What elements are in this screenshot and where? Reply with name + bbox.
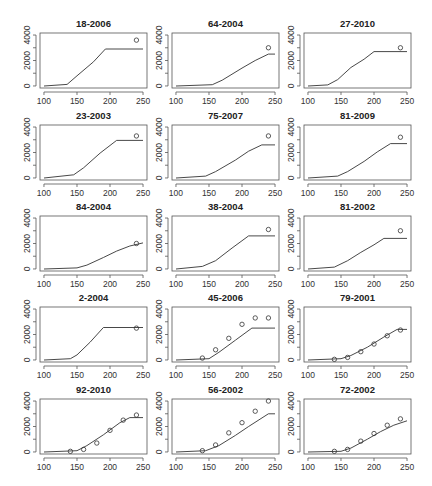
x-tick-label: 100	[169, 370, 183, 380]
plot-frame	[172, 33, 279, 88]
x-tick-label: 250	[136, 370, 150, 380]
x-tick-label: 200	[103, 96, 117, 106]
x-tick-label: 100	[37, 370, 51, 380]
y-tick-label: 4000	[154, 208, 164, 227]
y-tick-label: 2000	[286, 234, 296, 253]
x-tick-label: 150	[70, 462, 84, 472]
panel-title: 75-2007	[208, 110, 243, 121]
x-tick-label: 250	[268, 279, 282, 289]
x-tick-label: 200	[367, 370, 381, 380]
plot-frame	[172, 399, 279, 454]
y-tick-label: 4000	[286, 25, 296, 44]
x-tick-label: 100	[301, 370, 315, 380]
y-tick-label: 4000	[154, 391, 164, 410]
fitted-line	[176, 145, 275, 178]
panel-84-2004: 84-2004100150200250020004000	[22, 201, 150, 289]
y-tick-label: 4000	[154, 25, 164, 44]
x-tick-label: 250	[136, 96, 150, 106]
fitted-line	[308, 421, 407, 452]
y-tick-label: 0	[154, 175, 164, 180]
y-tick-label: 0	[154, 83, 164, 88]
panel-title: 27-2010	[340, 18, 375, 29]
panel-72-2002: 72-2002100150200250020004000	[286, 384, 414, 472]
y-tick-label: 4000	[286, 208, 296, 227]
x-tick-label: 100	[169, 279, 183, 289]
y-tick-label: 0	[22, 83, 32, 88]
x-tick-label: 200	[103, 279, 117, 289]
fitted-line	[176, 328, 275, 360]
panel-45-2006: 45-2006100150200250020004000	[154, 292, 282, 380]
panel-64-2004: 64-2004100150200250020004000	[154, 18, 282, 106]
observed-point	[227, 336, 231, 340]
x-tick-label: 100	[301, 188, 315, 198]
y-tick-label: 4000	[286, 391, 296, 410]
x-tick-label: 200	[235, 462, 249, 472]
y-tick-label: 2000	[154, 325, 164, 344]
x-tick-label: 200	[103, 462, 117, 472]
x-tick-label: 100	[301, 96, 315, 106]
observed-point	[398, 229, 402, 233]
observed-point	[398, 135, 402, 139]
fitted-line	[176, 236, 275, 269]
observed-point	[266, 46, 270, 50]
panel-title: 84-2004	[76, 201, 112, 212]
panel-title: 72-2002	[340, 384, 375, 395]
x-tick-label: 250	[268, 96, 282, 106]
y-tick-label: 2000	[22, 234, 32, 253]
observed-point	[266, 399, 270, 403]
panel-2-2004: 2-2004100150200250020004000	[22, 292, 150, 380]
panel-92-2010: 92-2010100150200250020004000	[22, 384, 150, 472]
fitted-line	[44, 140, 143, 178]
panel-81-2002: 81-2002100150200250020004000	[286, 201, 414, 289]
plot-frame	[172, 216, 279, 271]
y-tick-label: 0	[286, 175, 296, 180]
fitted-line	[176, 414, 275, 452]
observed-point	[81, 447, 85, 451]
x-tick-label: 200	[235, 96, 249, 106]
y-tick-label: 0	[22, 449, 32, 454]
x-tick-label: 100	[301, 279, 315, 289]
x-tick-label: 250	[136, 188, 150, 198]
y-tick-label: 0	[286, 449, 296, 454]
panel-title: 81-2009	[340, 110, 375, 121]
x-tick-label: 100	[169, 462, 183, 472]
x-tick-label: 250	[136, 279, 150, 289]
y-tick-label: 2000	[154, 417, 164, 436]
x-tick-label: 150	[334, 462, 348, 472]
observed-point	[266, 316, 270, 320]
x-tick-label: 250	[136, 462, 150, 472]
y-tick-label: 4000	[22, 208, 32, 227]
x-tick-label: 150	[202, 279, 216, 289]
y-tick-label: 0	[154, 266, 164, 271]
y-tick-label: 2000	[22, 51, 32, 70]
observed-point	[134, 413, 138, 417]
panel-56-2002: 56-2002100150200250020004000	[154, 384, 282, 472]
plot-frame	[304, 33, 411, 88]
observed-point	[398, 46, 402, 50]
y-tick-label: 4000	[22, 391, 32, 410]
x-tick-label: 100	[301, 462, 315, 472]
x-tick-label: 250	[400, 462, 414, 472]
y-tick-label: 4000	[22, 25, 32, 44]
fitted-line	[176, 54, 275, 86]
panel-81-2009: 81-2009100150200250020004000	[286, 110, 414, 198]
fitted-line	[44, 243, 143, 269]
x-tick-label: 200	[367, 279, 381, 289]
observed-point	[95, 441, 99, 445]
x-tick-label: 100	[37, 96, 51, 106]
panel-title: 2-2004	[79, 292, 109, 303]
y-tick-label: 2000	[22, 325, 32, 344]
y-tick-label: 2000	[286, 325, 296, 344]
y-tick-label: 4000	[22, 117, 32, 136]
x-tick-label: 250	[400, 370, 414, 380]
observed-point	[266, 227, 270, 231]
fitted-line	[44, 328, 143, 361]
y-tick-label: 4000	[22, 299, 32, 318]
observed-point	[227, 431, 231, 435]
observed-point	[134, 134, 138, 138]
fitted-line	[44, 49, 143, 86]
fitted-line	[308, 52, 407, 86]
fitted-line	[308, 238, 407, 269]
y-tick-label: 2000	[154, 234, 164, 253]
observed-point	[253, 409, 257, 413]
